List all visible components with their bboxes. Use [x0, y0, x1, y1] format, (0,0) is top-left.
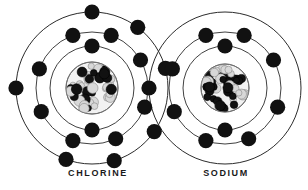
electron-chlorine-shell2-3 — [133, 52, 148, 67]
atom-label-sodium: SODIUM — [203, 168, 249, 178]
electron-shells-layer — [16, 12, 301, 164]
electron-chlorine-shell2-8 — [32, 61, 47, 76]
electron-sodium-shell2-6 — [198, 133, 213, 148]
electron-sodium-shell2-7 — [167, 104, 182, 119]
electron-sodium-shell1-1 — [217, 38, 232, 53]
electron-chlorine-shell2-2 — [104, 28, 119, 43]
electron-chlorine-shell2-6 — [65, 133, 80, 148]
electron-chlorine-shell3-6 — [58, 152, 73, 167]
electron-chlorine-shell2-5 — [108, 131, 123, 146]
electron-sodium-shell2-8 — [165, 61, 180, 76]
electron-chlorine-shell2-4 — [137, 100, 152, 115]
electron-sodium-shell2-2 — [237, 28, 252, 43]
electron-chlorine-shell2-7 — [34, 104, 49, 119]
electron-chlorine-shell3-5 — [107, 153, 122, 168]
electron-sodium-shell2-4 — [270, 100, 285, 115]
atom-diagram — [0, 0, 308, 190]
electron-chlorine-shell1-2 — [84, 122, 99, 137]
electron-sodium-shell2-3 — [266, 52, 281, 67]
atom-diagram-scene: CHLORINE SODIUM — [0, 0, 308, 190]
electron-chlorine-shell3-7 — [8, 80, 23, 95]
electron-sodium-shell2-5 — [241, 131, 256, 146]
electron-chlorine-shell3-2 — [130, 20, 145, 35]
nucleus-sodium — [200, 64, 249, 113]
electron-chlorine-shell2-1 — [65, 28, 80, 43]
electron-chlorine-shell3-1 — [84, 4, 99, 19]
electron-chlorine-shell3-4 — [147, 124, 162, 139]
electron-chlorine-shell1-1 — [84, 38, 99, 53]
nuclei-layer — [66, 62, 249, 114]
nucleus-chlorine — [66, 62, 118, 114]
atom-label-chlorine: CHLORINE — [68, 168, 128, 178]
electron-sodium-shell2-1 — [198, 28, 213, 43]
electron-sodium-shell1-2 — [217, 122, 232, 137]
electron-sodium-shell3-1 — [141, 80, 156, 95]
